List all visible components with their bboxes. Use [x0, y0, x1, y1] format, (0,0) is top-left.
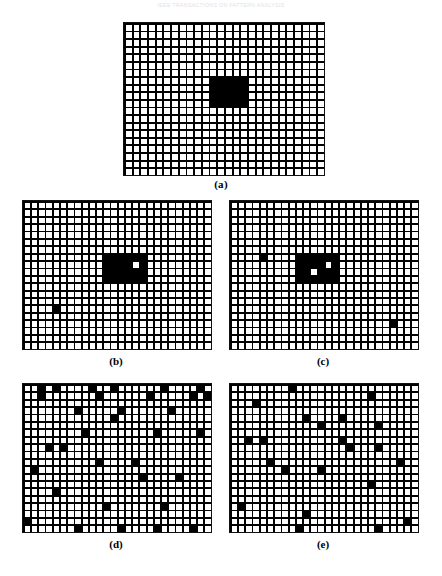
caption-c: (c) — [229, 355, 417, 367]
panel-c-lattice — [229, 200, 419, 350]
panel-d-lattice — [22, 383, 212, 533]
panel-a — [123, 22, 323, 174]
scan-page-header: IEEE TRANSACTIONS ON PATTERN ANALYSIS — [0, 0, 442, 10]
caption-e: (e) — [229, 538, 417, 550]
caption-d: (d) — [22, 538, 210, 550]
panel-b-grid — [23, 201, 211, 349]
panel-c-grid — [230, 201, 418, 349]
figure-root: IEEE TRANSACTIONS ON PATTERN ANALYSIS (a… — [0, 0, 442, 576]
panel-a-lattice — [123, 22, 325, 176]
panel-e — [229, 383, 417, 531]
panel-d-grid — [23, 384, 211, 532]
panel-b — [22, 200, 210, 348]
caption-b: (b) — [22, 355, 210, 367]
panel-b-lattice — [22, 200, 212, 350]
panel-e-grid — [230, 384, 418, 532]
panel-a-grid — [124, 23, 324, 175]
panel-c — [229, 200, 417, 348]
caption-a: (a) — [0, 178, 442, 190]
panel-d — [22, 383, 210, 531]
panel-e-lattice — [229, 383, 419, 533]
